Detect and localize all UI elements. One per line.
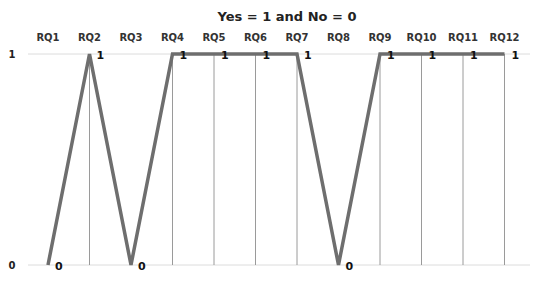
- x-axis-categories: RQ1RQ2RQ3RQ4RQ5RQ6RQ7RQ8RQ9RQ10RQ11RQ12: [36, 32, 519, 43]
- category-label: RQ9: [368, 32, 391, 43]
- data-label: 1: [429, 49, 437, 62]
- chart-title: Yes = 1 and No = 0: [217, 9, 357, 24]
- data-label: 0: [346, 260, 354, 273]
- category-label: RQ7: [285, 32, 308, 43]
- category-label: RQ2: [78, 32, 101, 43]
- category-label: RQ3: [119, 32, 142, 43]
- category-label: RQ5: [202, 32, 225, 43]
- data-label: 0: [55, 260, 63, 273]
- category-label: RQ10: [406, 32, 436, 43]
- data-label: 1: [180, 49, 188, 62]
- data-label: 1: [512, 49, 520, 62]
- data-label: 1: [221, 49, 229, 62]
- category-label: RQ4: [161, 32, 184, 43]
- data-label: 1: [387, 49, 395, 62]
- y-axis: 01: [9, 49, 16, 271]
- data-label: 0: [138, 260, 146, 273]
- gridlines: [28, 54, 530, 265]
- y-tick-label: 0: [9, 260, 16, 271]
- category-label: RQ8: [327, 32, 350, 43]
- series-line: [48, 54, 505, 265]
- category-label: RQ11: [448, 32, 478, 43]
- data-label: 1: [97, 49, 105, 62]
- data-label: 1: [304, 49, 312, 62]
- category-label: RQ12: [489, 32, 519, 43]
- y-tick-label: 1: [9, 49, 16, 60]
- data-label: 1: [470, 49, 478, 62]
- line-chart: Yes = 1 and No = 0 RQ1RQ2RQ3RQ4RQ5RQ6RQ7…: [0, 0, 537, 282]
- category-label: RQ6: [244, 32, 267, 43]
- data-label: 1: [263, 49, 271, 62]
- category-label: RQ1: [36, 32, 59, 43]
